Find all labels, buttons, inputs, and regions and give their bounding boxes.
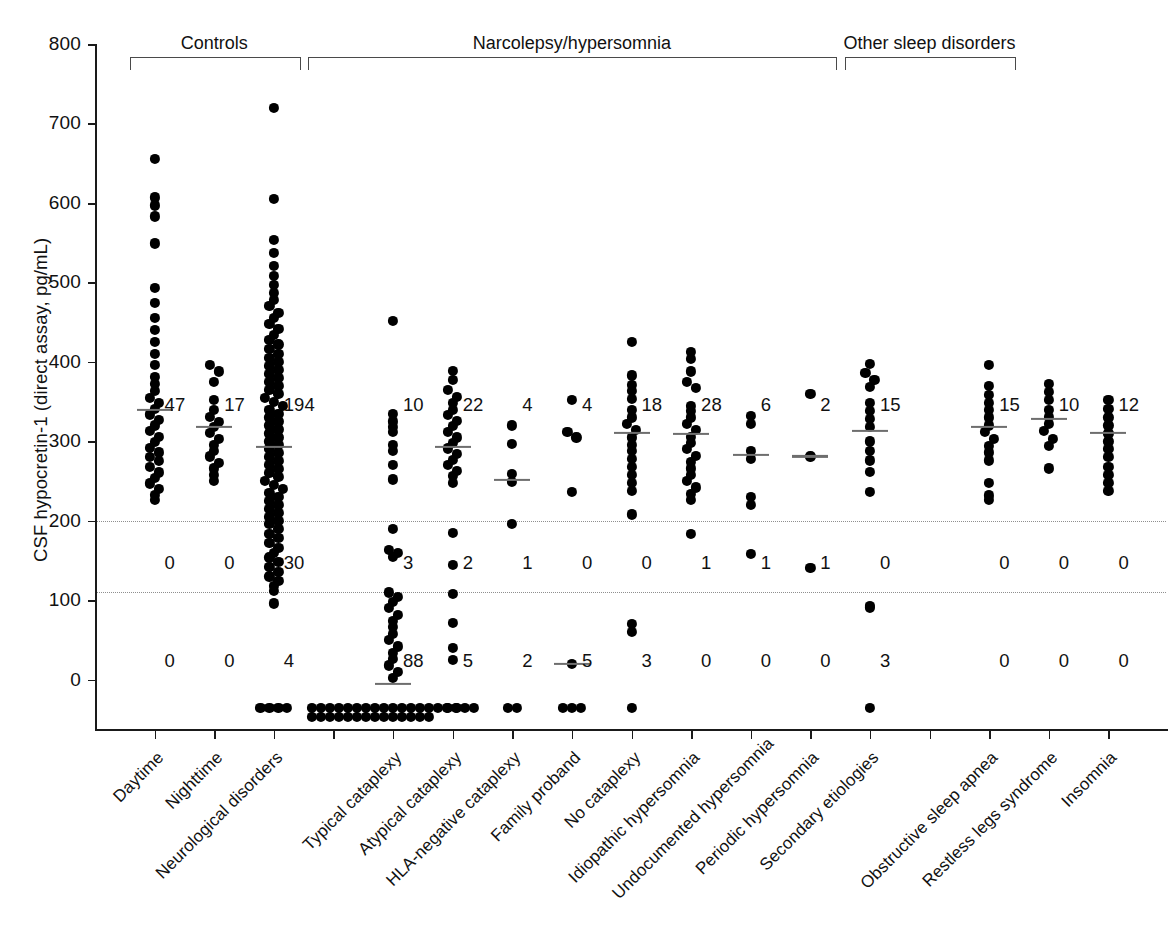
count-label-mid: 1	[761, 552, 771, 574]
x-tick-mark	[155, 731, 156, 739]
data-point	[448, 478, 458, 488]
x-tick-mark	[1049, 731, 1050, 739]
count-label-high: 10	[403, 394, 424, 416]
y-tick-mark	[88, 123, 96, 125]
count-label-low: 0	[1059, 650, 1069, 672]
data-point	[1044, 441, 1054, 451]
y-tick-mark	[88, 441, 96, 443]
y-tick-mark	[88, 362, 96, 364]
data-point	[154, 456, 164, 466]
count-label-high: 17	[224, 394, 245, 416]
data-point	[1039, 426, 1049, 436]
x-tick-mark	[393, 731, 394, 739]
data-point	[214, 366, 224, 376]
data-point	[448, 559, 458, 569]
data-point	[626, 394, 636, 404]
median-bar	[971, 426, 1007, 428]
reference-line-lower-threshold	[97, 592, 1166, 593]
group-label: Narcolepsy/hypersomnia	[473, 33, 671, 54]
count-label-high: 28	[701, 394, 722, 416]
count-label-high: 6	[761, 394, 771, 416]
data-point	[567, 487, 577, 497]
data-point	[984, 478, 994, 488]
x-tick-mark	[632, 731, 633, 739]
reference-line-upper-threshold	[97, 521, 1166, 522]
data-point	[626, 627, 636, 637]
y-axis-line	[95, 44, 97, 729]
data-point	[448, 589, 458, 599]
median-bar	[614, 431, 650, 433]
data-point	[512, 702, 522, 712]
data-point	[150, 238, 160, 248]
y-tick-label: 500	[5, 271, 81, 293]
x-tick-mark	[870, 731, 871, 739]
x-tick-mark	[751, 731, 752, 739]
count-label-low: 5	[582, 650, 592, 672]
group-label: Controls	[181, 33, 248, 54]
count-label-low: 88	[403, 650, 424, 672]
data-point	[388, 460, 398, 470]
data-point	[269, 235, 279, 245]
count-label-high: 15	[999, 394, 1020, 416]
median-bar	[375, 683, 411, 685]
data-point	[865, 455, 875, 465]
count-label-mid: 0	[642, 552, 652, 574]
data-point	[448, 643, 458, 653]
data-point	[746, 549, 756, 559]
data-point	[209, 377, 219, 387]
y-tick-label: 600	[5, 192, 81, 214]
data-point	[388, 446, 398, 456]
count-label-mid: 0	[1118, 552, 1128, 574]
data-point	[150, 349, 160, 359]
count-label-high: 4	[522, 394, 532, 416]
data-point	[448, 617, 458, 627]
count-label-low: 3	[642, 650, 652, 672]
y-tick-mark	[88, 203, 96, 205]
data-point	[269, 261, 279, 271]
y-tick-mark	[88, 282, 96, 284]
data-point	[150, 298, 160, 308]
count-label-high: 194	[284, 394, 315, 416]
data-point	[388, 551, 398, 561]
x-tick-mark	[930, 731, 931, 739]
y-tick-label: 100	[5, 589, 81, 611]
count-label-low: 0	[1118, 650, 1128, 672]
x-tick-mark	[989, 731, 990, 739]
data-point	[150, 154, 160, 164]
x-tick-mark	[1108, 731, 1109, 739]
y-tick-mark	[88, 680, 96, 682]
count-label-high: 18	[642, 394, 663, 416]
count-label-mid: 2	[463, 552, 473, 574]
median-bar	[256, 446, 292, 448]
data-point	[1044, 463, 1054, 473]
data-point	[805, 389, 815, 399]
count-label-high: 22	[463, 394, 484, 416]
count-label-low: 0	[820, 650, 830, 672]
count-label-mid: 1	[522, 552, 532, 574]
y-tick-label: 800	[5, 33, 81, 55]
data-point	[984, 360, 994, 370]
data-point	[746, 500, 756, 510]
data-point	[1103, 486, 1113, 496]
data-point	[269, 598, 279, 608]
data-point	[388, 474, 398, 484]
count-label-high: 15	[880, 394, 901, 416]
group-bracket	[845, 57, 1016, 70]
median-bar	[852, 430, 888, 432]
data-point	[469, 702, 479, 712]
data-point	[576, 702, 586, 712]
median-bar	[792, 455, 828, 457]
data-point	[626, 702, 636, 712]
data-point	[448, 528, 458, 538]
data-point	[388, 524, 398, 534]
data-point	[507, 519, 517, 529]
data-point	[269, 194, 279, 204]
count-label-mid: 0	[880, 552, 890, 574]
x-tick-mark	[572, 731, 573, 739]
count-label-low: 0	[761, 650, 771, 672]
y-tick-mark	[88, 600, 96, 602]
data-point	[805, 563, 815, 573]
data-point	[150, 313, 160, 323]
count-label-mid: 3	[403, 552, 413, 574]
x-tick-mark	[453, 731, 454, 739]
